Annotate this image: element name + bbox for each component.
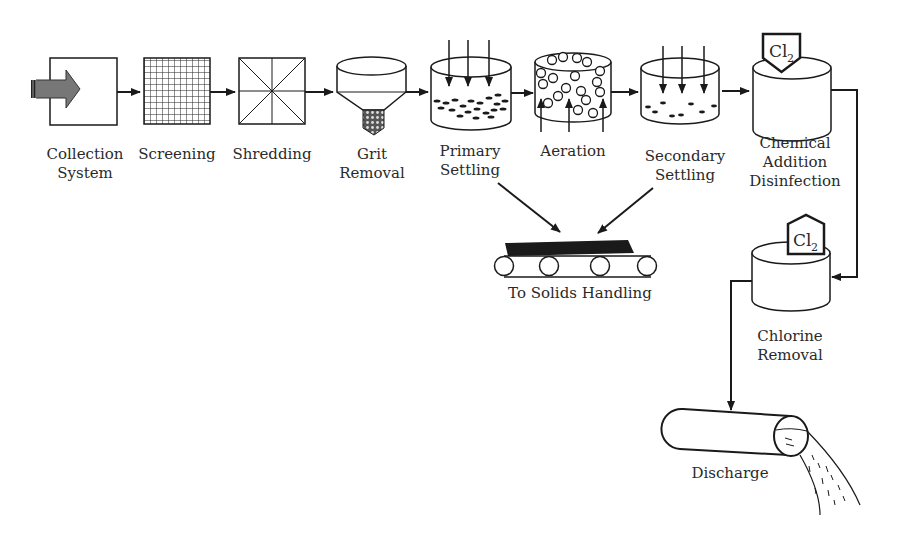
chlorine-removal-tank: Cl 2 [752, 215, 830, 311]
label-collection-system: Collection System [35, 145, 135, 183]
label-chlorine-removal: Chlorine Removal [740, 327, 840, 365]
aeration-tank [535, 53, 611, 133]
label-shredding: Shredding [222, 145, 322, 164]
svg-text:2: 2 [811, 241, 818, 254]
solids-conveyor [495, 240, 657, 277]
secondary-settling-tank [641, 46, 719, 124]
label-primary-settling: Primary Settling [420, 142, 520, 180]
svg-text:2: 2 [787, 52, 794, 65]
svg-text:Cl: Cl [769, 41, 787, 61]
label-grit-removal: Grit Removal [322, 145, 422, 183]
label-screening: Screening [127, 145, 227, 164]
label-chemical-addition: Chemical Addition Disinfection [735, 134, 855, 191]
primary-settling-tank [431, 40, 511, 130]
collection-system-box [31, 58, 117, 125]
shredding-box [239, 58, 305, 124]
svg-text:Cl: Cl [793, 230, 811, 250]
label-discharge: Discharge [680, 464, 780, 483]
process-diagram: Cl 2 Cl 2 [0, 0, 901, 538]
chemical-addition-tank: Cl 2 [753, 34, 831, 141]
screening-grid [144, 58, 210, 124]
label-aeration: Aeration [523, 142, 623, 161]
discharge-pipe [661, 409, 860, 515]
label-solids-handling: To Solids Handling [490, 284, 670, 303]
label-secondary-settling: Secondary Settling [630, 147, 740, 185]
grit-removal-hopper [337, 57, 406, 135]
